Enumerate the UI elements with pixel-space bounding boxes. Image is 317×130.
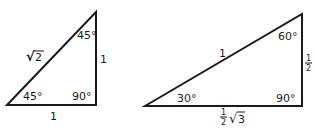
fraction-denominator: 2 [306, 64, 311, 73]
side-vertical-half: 1 2 [305, 54, 312, 73]
angle-top-60: 60° [278, 30, 298, 43]
angle-right-90: 90° [72, 90, 92, 103]
side-horizontal-half-sqrt3: 1 2 √ 3 [220, 108, 245, 127]
side-vertical-1: 1 [100, 53, 107, 66]
angle-bottom-left-30: 30° [177, 92, 197, 105]
fraction-numerator: 1 [306, 54, 311, 63]
hypotenuse-label-sqrt2: √ 2 [26, 49, 44, 64]
triangle-45-45-90: 45° 45° 90° √ 2 1 1 [7, 12, 107, 123]
radical-sign: √ [26, 49, 35, 64]
angle-right-90: 90° [276, 92, 296, 105]
hypotenuse-label-1: 1 [219, 47, 226, 60]
radical-sign: √ [229, 111, 238, 126]
side-horizontal-1: 1 [50, 110, 57, 123]
fraction-numerator: 1 [221, 108, 226, 117]
fraction-denominator: 2 [221, 118, 226, 127]
triangle-30-60-90: 60° 30° 90° 1 1 2 1 2 √ 3 [145, 14, 312, 127]
angle-top-45: 45° [77, 29, 97, 42]
radicand-2: 2 [35, 51, 42, 64]
angle-bottom-left-45: 45° [23, 90, 43, 103]
special-triangles-diagram: 45° 45° 90° √ 2 1 1 60° 30° 90° 1 1 2 1 … [0, 0, 317, 130]
radicand-3: 3 [238, 113, 245, 126]
